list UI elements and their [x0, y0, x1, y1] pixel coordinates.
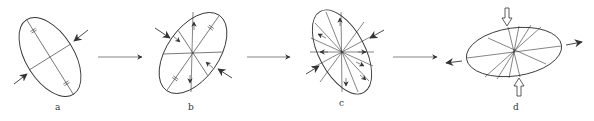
- panel-d: d: [446, 8, 582, 112]
- panel-b: b: [145, 0, 240, 112]
- panel-label-d: d: [513, 102, 519, 112]
- panel-a: a: [6, 7, 93, 112]
- panel-c: c: [300, 1, 384, 108]
- panel-label-c: c: [339, 98, 344, 108]
- panel-label-a: a: [55, 102, 61, 112]
- panel-label-b: b: [188, 102, 194, 112]
- deformation-diagram: a b: [0, 0, 594, 121]
- strain-ellipse-a: [6, 7, 93, 107]
- radial-lines: [467, 25, 561, 79]
